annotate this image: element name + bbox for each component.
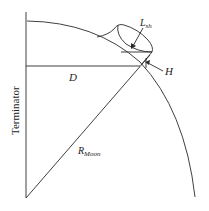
distance-d-label: D bbox=[68, 71, 77, 83]
terminator-label: Terminator bbox=[9, 86, 21, 135]
radius-line bbox=[26, 55, 150, 198]
shadow-length-label: Lsh bbox=[139, 17, 152, 30]
height-h-label: H bbox=[164, 65, 174, 77]
moon-shadow-diagram: Terminator D H Lsh RMoon bbox=[0, 0, 209, 211]
moon-surface-arc bbox=[27, 21, 195, 197]
lsh-pointer-line bbox=[133, 28, 143, 46]
moon-radius-label: RMoon bbox=[77, 145, 101, 158]
h-pointer-line bbox=[148, 63, 163, 71]
